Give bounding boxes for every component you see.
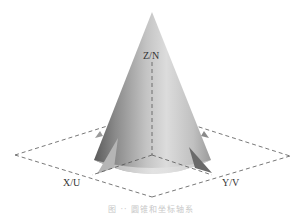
figure-caption: 图 ·· 圆锥和坐标轴系 — [0, 203, 302, 214]
cone-diagram: Z/N X/U Y/V — [0, 0, 302, 215]
x-axis-label: X/U — [63, 177, 81, 188]
fin-back-left — [95, 131, 103, 138]
z-axis-label: Z/N — [143, 50, 159, 61]
y-axis-label: Y/V — [222, 177, 240, 188]
fin-back-right — [201, 131, 209, 138]
